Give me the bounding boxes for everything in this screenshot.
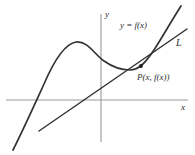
x-axis-label: x bbox=[180, 102, 185, 112]
line-label: L bbox=[175, 37, 182, 48]
point-label: P(x, f(x)) bbox=[136, 72, 169, 82]
curve-label: y = f(x) bbox=[119, 20, 147, 30]
tangent-point-marker bbox=[139, 64, 143, 68]
figure-canvas: y x y = f(x) L P(x, f(x)) bbox=[0, 0, 195, 155]
y-axis-label: y bbox=[104, 9, 109, 19]
tangent-line-figure: y x y = f(x) L P(x, f(x)) bbox=[0, 0, 195, 155]
